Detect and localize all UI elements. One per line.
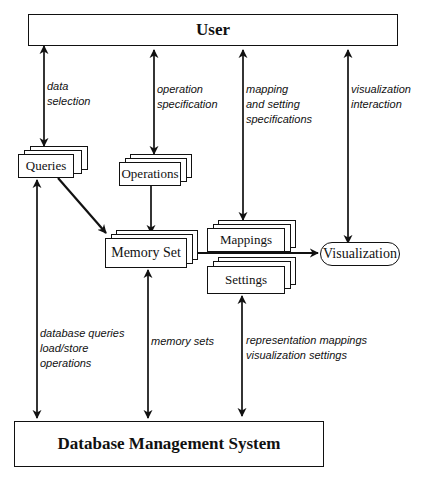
mappings-label: Mappings (220, 232, 272, 248)
arrow-queries-memoryset (58, 178, 106, 233)
memory-set-node: Memory Set (105, 238, 187, 268)
dbms-node: Database Management System (14, 421, 324, 467)
operations-label: Operations (121, 166, 178, 182)
label-visualization-interaction: visualization interaction (351, 82, 411, 112)
user-node: User (28, 14, 398, 46)
queries-node: Queries (18, 154, 74, 178)
mappings-node: Mappings (207, 228, 285, 252)
visualization-label: Visualization (323, 246, 397, 262)
user-label: User (196, 20, 230, 40)
queries-label: Queries (26, 158, 66, 174)
label-mapping-setting-specifications: mapping and setting specifications (246, 82, 312, 127)
label-data-selection: data selection (47, 79, 90, 109)
settings-node: Settings (207, 266, 285, 294)
dbms-label: Database Management System (58, 434, 281, 454)
label-memory-sets: memory sets (151, 334, 214, 349)
label-representation-mappings: representation mappings visualization se… (246, 333, 367, 363)
visualization-node: Visualization (320, 242, 400, 266)
operations-node: Operations (119, 162, 181, 186)
settings-label: Settings (225, 272, 267, 288)
label-database-queries: database queries load/store operations (40, 326, 124, 371)
memory-set-label: Memory Set (111, 245, 181, 261)
label-operation-specification: operation specification (157, 82, 218, 112)
